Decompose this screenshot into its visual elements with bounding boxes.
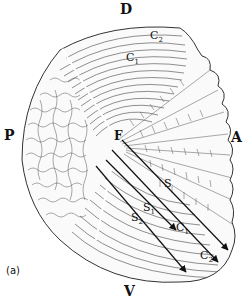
ventral-label: V [124,284,135,298]
dorsal-label: D [120,2,132,16]
scale-figure: D V P A F C2 C1 S S1 S2 C1 C2 (a) [0,0,246,303]
label-S: S [164,178,172,189]
label-C1-top: C1 [126,52,139,66]
anterior-label: A [231,130,242,144]
label-S2: S2 [131,212,143,226]
posterior-label: P [4,128,15,142]
focus-label: F [114,130,123,142]
label-C2-arrow: C2 [200,250,213,264]
label-C2-top: C2 [150,30,163,44]
panel-label: (a) [6,266,20,276]
label-S1: S1 [143,202,155,216]
label-C1-arrow: C1 [176,222,189,236]
